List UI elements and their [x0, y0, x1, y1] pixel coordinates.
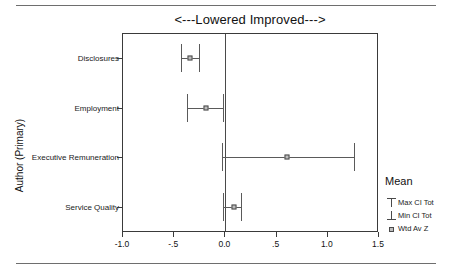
- y-axis-category-labels: DisclosuresEmploymentExecutive Remunerat…: [0, 0, 119, 275]
- max-ci-whisker-icon: [385, 196, 398, 209]
- legend-item-wtd-av-z: Wtd Av Z: [385, 222, 451, 235]
- x-axis-tick: [173, 232, 174, 237]
- legend-item-max-ci-tot: Max CI Tot: [385, 196, 451, 209]
- legend-item-min-ci-tot: Min CI Tot: [385, 209, 451, 222]
- min-ci-whisker-icon: [385, 209, 398, 222]
- legend-label-wtd-av-z: Wtd Av Z: [398, 224, 428, 233]
- x-axis-tick: [224, 232, 225, 237]
- y-axis-tick: [117, 157, 122, 158]
- chart-title: <---Lowered Improved--->: [122, 12, 378, 27]
- legend: Mean Max CI Tot Min CI Tot Wtd Av Z: [385, 175, 451, 235]
- x-axis-label: 1.0: [321, 239, 333, 249]
- x-axis-tick: [327, 232, 328, 237]
- forest-plot-figure: <---Lowered Improved---> Author (Primary…: [0, 0, 451, 275]
- legend-label-min-ci-tot: Min CI Tot: [398, 211, 432, 220]
- plot-area: [122, 33, 378, 232]
- x-axis-label: -1.0: [115, 239, 130, 249]
- y-axis-tick: [117, 58, 122, 59]
- y-axis-tick: [117, 207, 122, 208]
- y-axis-label-employment: Employment: [75, 103, 119, 112]
- x-axis-tick: [378, 232, 379, 237]
- min-ci-cap-employment: [187, 94, 188, 122]
- mean-marker-executive-remuneration: [284, 155, 289, 160]
- y-axis-label-disclosures: Disclosures: [78, 53, 119, 62]
- x-axis-label: .5: [272, 239, 279, 249]
- x-axis-label: 1.5: [372, 239, 384, 249]
- mean-marker-disclosures: [187, 55, 192, 60]
- max-ci-cap-disclosures: [199, 44, 200, 72]
- x-axis-tick: [276, 232, 277, 237]
- min-ci-cap-service-quality: [223, 193, 224, 221]
- x-axis-label: 0.0: [218, 239, 230, 249]
- max-ci-cap-service-quality: [241, 193, 242, 221]
- min-ci-cap-disclosures: [181, 44, 182, 72]
- x-axis-tick: [122, 232, 123, 237]
- mean-marker-service-quality: [231, 205, 236, 210]
- y-axis-label-executive-remuneration: Executive Remuneration: [32, 153, 119, 162]
- min-ci-cap-executive-remuneration: [222, 143, 223, 171]
- y-axis-label-service-quality: Service Quality: [65, 203, 119, 212]
- y-axis-tick: [117, 108, 122, 109]
- legend-label-max-ci-tot: Max CI Tot: [398, 198, 434, 207]
- legend-title: Mean: [385, 175, 451, 187]
- weighted-average-marker-icon: [385, 222, 398, 235]
- zero-reference-line: [225, 34, 226, 231]
- max-ci-cap-executive-remuneration: [354, 143, 355, 171]
- mean-marker-employment: [203, 105, 208, 110]
- x-axis-label: -.5: [168, 239, 178, 249]
- max-ci-cap-employment: [223, 94, 224, 122]
